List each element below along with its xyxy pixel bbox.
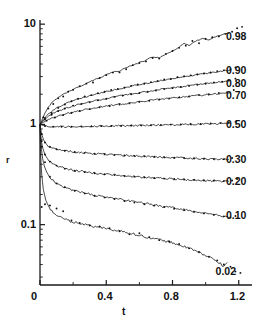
curve-0-20 [40,124,229,182]
x-axis-label: t [122,306,125,317]
y-tick-label: 1 [30,117,36,129]
chart-canvas [0,0,258,326]
curve-0-70 [40,93,230,125]
curve-label-0-50: 0.50 [226,118,246,130]
curve-label-0-10: 0.10 [226,209,246,221]
curve-0-98 [40,33,229,124]
curve-0-30 [40,124,229,160]
y-tick-label: 10 [24,17,36,29]
curve-label-0-90: 0.90 [226,64,246,76]
y-axis-label: r [6,155,10,165]
curve-label-0-70: 0.70 [226,89,246,101]
curve-label-0-02: 0.02 [216,265,236,277]
curve-0-02 [40,124,227,266]
x-tick-label: 1.2 [0,290,258,302]
curve-0-50 [40,123,230,128]
points-0-30 [41,133,233,160]
curve-label-0-80: 0.80 [226,77,246,89]
curve-0-90 [40,70,230,124]
points-0-20 [41,140,238,182]
points-0-80 [44,78,236,121]
y-tick-label: 0.1 [21,218,36,230]
curve-label-0-30: 0.30 [226,153,246,165]
curve-label-0-20: 0.20 [226,175,246,187]
figure-log-plot: r t 0.111000.40.81.20.980.900.800.700.50… [0,0,258,326]
curve-label-0-98: 0.98 [226,30,246,42]
